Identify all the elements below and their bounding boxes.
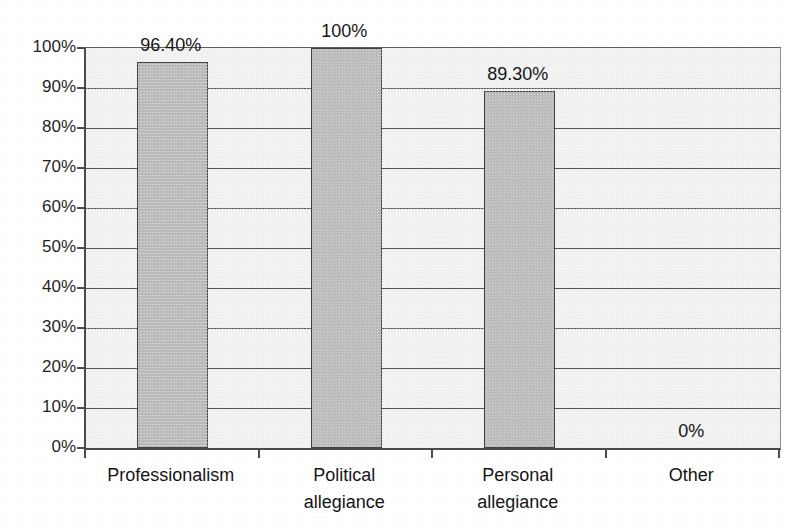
y-axis-tick-mark [77, 87, 85, 89]
bar [484, 91, 555, 448]
bar [311, 48, 382, 448]
y-axis-tick-label: 80% [0, 117, 76, 137]
x-axis-tick-mark [778, 449, 780, 458]
y-axis-tick-label: 0% [0, 437, 76, 457]
y-axis-tick-label: 10% [0, 397, 76, 417]
data-label: 89.30% [487, 64, 548, 85]
y-axis-tick-mark [77, 367, 85, 369]
bar-grain-texture [138, 63, 207, 447]
bar-chart-figure: 100%90%80%70%60%50%40%30%20%10%0% Profes… [0, 0, 796, 531]
y-axis-tick-label: 40% [0, 277, 76, 297]
y-axis-tick-mark [77, 287, 85, 289]
y-axis-tick-mark [77, 167, 85, 169]
y-axis-tick-label: 70% [0, 157, 76, 177]
x-axis-tick-mark [431, 449, 433, 458]
x-axis-category-label: Other [669, 462, 714, 489]
y-axis-tick-label: 100% [0, 37, 76, 57]
y-axis-tick-mark [77, 207, 85, 209]
y-axis-tick-mark [77, 407, 85, 409]
y-axis-tick-mark [77, 47, 85, 49]
data-label: 96.40% [140, 35, 201, 56]
y-axis-tick-label: 60% [0, 197, 76, 217]
bar-grain-texture [485, 92, 554, 447]
bar-grain-texture [312, 49, 381, 447]
bar [137, 62, 208, 448]
y-axis-tick-label: 90% [0, 77, 76, 97]
y-axis-tick-label: 20% [0, 357, 76, 377]
x-axis-category-label: Personal allegiance [477, 462, 558, 516]
y-axis-tick-label: 30% [0, 317, 76, 337]
plot-area [84, 47, 781, 450]
x-axis-category-label: Professionalism [107, 462, 234, 489]
x-axis-tick-mark [258, 449, 260, 458]
y-axis-tick-mark [77, 247, 85, 249]
y-axis-tick-label: 50% [0, 237, 76, 257]
y-axis-tick-mark [77, 127, 85, 129]
chart-title [0, 0, 796, 8]
data-label: 0% [678, 421, 704, 442]
x-axis-tick-mark [605, 449, 607, 458]
x-axis-tick-mark [84, 449, 86, 458]
x-axis-category-label: Political allegiance [304, 462, 385, 516]
y-axis-tick-mark [77, 327, 85, 329]
data-label: 100% [321, 21, 367, 42]
